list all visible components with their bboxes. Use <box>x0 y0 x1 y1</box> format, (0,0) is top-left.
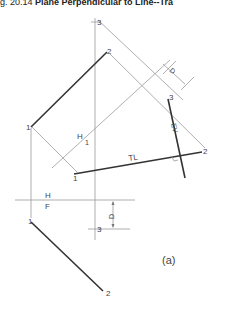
label-fold-h1-h: H <box>77 132 83 141</box>
label-front-2: 2 <box>106 289 111 298</box>
label-aux-1: 1 <box>73 174 78 183</box>
label-front-3: 3 <box>97 225 102 234</box>
label-fold-h1-1: 1 <box>85 139 89 146</box>
top-view-line-12 <box>31 52 107 127</box>
arrow-up <box>112 201 115 205</box>
projector-aux-3 <box>98 20 183 100</box>
label-top-2: 2 <box>107 47 112 56</box>
label-front-1: 1 <box>28 217 33 226</box>
subfigure-label: (a) <box>162 254 175 266</box>
descriptive-geometry-drawing: 3 2 1 3 2 1 1 2 3 H 1 H F TL EV D D (a) <box>0 0 227 309</box>
label-edge-view: EV <box>170 123 179 134</box>
extension-line-aux-b <box>181 77 194 90</box>
projector-aux-2 <box>110 54 205 148</box>
label-fold-hf-h: H <box>45 191 51 200</box>
fold-line-h1 <box>52 60 170 168</box>
front-view-line-12 <box>31 222 103 291</box>
label-aux-2: 2 <box>203 147 208 156</box>
label-top-1: 1 <box>26 123 31 132</box>
label-distance-front: D <box>108 214 115 219</box>
label-fold-hf-f: F <box>45 202 50 211</box>
label-top-3: 3 <box>97 18 102 27</box>
label-true-length: TL <box>128 152 139 163</box>
plane-edge-view <box>168 99 185 178</box>
label-aux-3: 3 <box>169 93 174 102</box>
projector-aux-1 <box>31 126 77 172</box>
arrow-down <box>112 224 115 228</box>
